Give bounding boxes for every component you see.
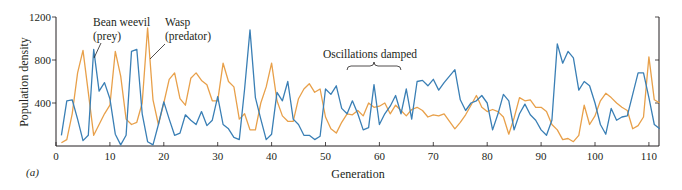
predator-pointer bbox=[150, 44, 165, 59]
y-tick-label: 400 bbox=[35, 97, 52, 109]
damped-brace bbox=[347, 62, 401, 70]
x-tick-label: 30 bbox=[212, 150, 224, 162]
x-axis-title: Generation bbox=[331, 167, 384, 181]
x-tick-label: 0 bbox=[53, 150, 59, 162]
panel-label: (a) bbox=[26, 166, 39, 179]
predator-line bbox=[61, 28, 659, 143]
y-axis-title: Population density bbox=[17, 37, 31, 127]
series-lines bbox=[61, 28, 659, 145]
damped-label: Oscillations damped bbox=[323, 48, 417, 61]
x-tick-label: 70 bbox=[428, 150, 440, 162]
x-tick-label: 40 bbox=[266, 150, 278, 162]
x-tick-label: 110 bbox=[641, 150, 658, 162]
annotation-predator: Wasp (predator) bbox=[150, 16, 211, 59]
prey-label-line2: (prey) bbox=[93, 30, 121, 43]
prey-label-line1: Bean weevil bbox=[93, 16, 150, 28]
y-tick-label: 1200 bbox=[29, 11, 52, 23]
population-chart: 0102030405060708090100110 4008001200 Gen… bbox=[0, 0, 682, 190]
x-tick-label: 60 bbox=[374, 150, 386, 162]
x-ticks: 0102030405060708090100110 bbox=[53, 142, 657, 162]
y-tick-label: 800 bbox=[35, 54, 52, 66]
x-tick-label: 80 bbox=[482, 150, 494, 162]
predator-label-line1: Wasp bbox=[165, 16, 191, 29]
annotation-damped: Oscillations damped bbox=[323, 48, 417, 70]
predator-label-line2: (predator) bbox=[165, 30, 211, 43]
x-tick-label: 100 bbox=[587, 150, 604, 162]
x-tick-label: 20 bbox=[158, 150, 170, 162]
x-tick-label: 10 bbox=[104, 150, 116, 162]
x-tick-label: 50 bbox=[320, 150, 332, 162]
x-tick-label: 90 bbox=[536, 150, 548, 162]
annotation-prey: Bean weevil (prey) bbox=[93, 16, 150, 58]
prey-pointer bbox=[94, 43, 101, 58]
